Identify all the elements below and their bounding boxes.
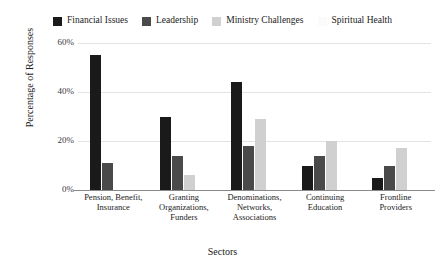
x-axis-line — [74, 190, 435, 191]
bar[interactable] — [102, 163, 113, 190]
bar[interactable] — [302, 166, 313, 191]
x-category-label: GrantingOrganizations,Funders — [149, 192, 220, 222]
bar-group — [290, 43, 361, 190]
x-axis-categories: Pension, Benefit,InsuranceGrantingOrgani… — [78, 192, 431, 222]
legend-item-label: Financial Issues — [67, 16, 128, 26]
y-tick-label: 20% — [40, 136, 74, 145]
legend-item[interactable]: Ministry Challenges — [212, 16, 303, 26]
bar[interactable] — [243, 146, 254, 190]
x-category-label: Pension, Benefit,Insurance — [78, 192, 149, 222]
legend-swatch-icon — [142, 17, 151, 26]
x-category-label-line: Granting — [150, 192, 219, 202]
x-category-label-line: Insurance — [79, 202, 148, 212]
legend-item[interactable]: Spiritual Health — [318, 16, 392, 26]
x-category-label: ContinuingEducation — [290, 192, 361, 222]
legend-item-label: Leadership — [156, 16, 198, 26]
bar-chart: Financial IssuesLeadershipMinistry Chall… — [0, 0, 445, 272]
legend-item[interactable]: Leadership — [142, 16, 198, 26]
x-category-label-line: Providers — [361, 202, 430, 212]
bar[interactable] — [184, 175, 195, 190]
x-category-label-line: Continuing — [291, 192, 360, 202]
bar[interactable] — [396, 148, 407, 190]
bar[interactable] — [90, 55, 101, 190]
x-category-label-line: Denominations, — [220, 192, 289, 202]
legend-swatch-icon — [318, 17, 327, 26]
x-category-label: FrontlineProviders — [360, 192, 431, 222]
bar-group — [360, 43, 431, 190]
legend-item-label: Ministry Challenges — [226, 16, 303, 26]
y-axis-title: Percentage of Responses — [24, 0, 35, 163]
bars-layer — [78, 43, 431, 190]
y-axis-ticks: 0%20%40%60% — [34, 0, 74, 272]
x-category-label-line: Funders — [150, 212, 219, 222]
bar-group — [219, 43, 290, 190]
bar[interactable] — [314, 156, 325, 190]
x-category-label-line: Networks, — [220, 202, 289, 212]
bar[interactable] — [231, 82, 242, 190]
bar[interactable] — [372, 178, 383, 190]
x-category-label-line: Frontline — [361, 192, 430, 202]
bar[interactable] — [160, 117, 171, 191]
bar-group — [149, 43, 220, 190]
x-category-label: Denominations,Networks,Associations — [219, 192, 290, 222]
y-tick-label: 40% — [40, 87, 74, 96]
y-tick-label: 0% — [40, 185, 74, 194]
x-axis-title: Sectors — [0, 246, 445, 257]
y-tick-label: 60% — [40, 38, 74, 47]
x-category-label-line: Education — [291, 202, 360, 212]
legend-item-label: Spiritual Health — [332, 16, 392, 26]
x-category-label-line: Associations — [220, 212, 289, 222]
x-category-label-line: Organizations, — [150, 202, 219, 212]
bar-group — [78, 43, 149, 190]
bar[interactable] — [384, 166, 395, 191]
bar[interactable] — [255, 119, 266, 190]
legend-swatch-icon — [212, 17, 221, 26]
bar[interactable] — [172, 156, 183, 190]
x-category-label-line: Pension, Benefit, — [79, 192, 148, 202]
bar[interactable] — [326, 141, 337, 190]
